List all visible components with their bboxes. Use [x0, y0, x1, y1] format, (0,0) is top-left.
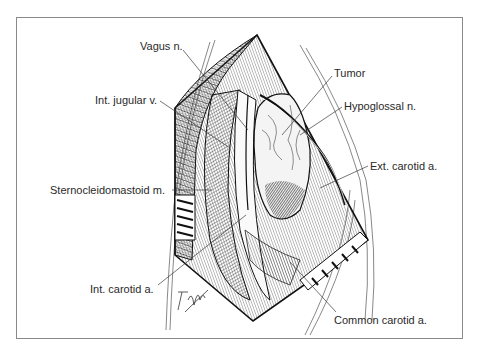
label-hypoglossal-nerve: Hypoglossal n. — [344, 100, 416, 112]
label-common-carotid: Common carotid a. — [334, 314, 427, 326]
label-tumor: Tumor — [334, 67, 365, 79]
label-internal-jugular-vein: Int. jugular v. — [95, 94, 157, 106]
artist-signature — [178, 290, 208, 312]
surgical-illustration — [0, 0, 481, 361]
label-external-carotid: Ext. carotid a. — [370, 160, 437, 172]
leader-hypoglossal — [300, 107, 342, 135]
label-internal-carotid: Int. carotid a. — [90, 283, 154, 295]
label-sternocleidomastoid: Sternocleidomastoid m. — [50, 184, 165, 196]
label-vagus-nerve: Vagus n. — [140, 40, 183, 52]
